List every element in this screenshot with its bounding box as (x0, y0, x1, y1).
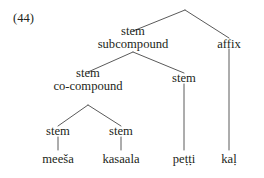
node-stem-meesa: stem (46, 125, 70, 138)
node-stem-petti: stem (172, 72, 196, 85)
node-affix-line1: affix (217, 38, 241, 51)
node-stem-petti-line1: stem (172, 72, 196, 85)
branch-cocompound-to-stem-meesa (58, 105, 88, 126)
figure-root: (44) stem subcompound affix stem co-comp… (0, 0, 264, 178)
node-stem-kasaala: stem (109, 125, 133, 138)
branch-root-to-affix (185, 10, 229, 38)
node-stem-meesa-line1: stem (46, 125, 70, 138)
node-cocompound-line2: co-compound (53, 80, 122, 93)
leaf-kasaala: kasaala (102, 152, 139, 167)
leaf-meesa: meeša (42, 152, 73, 167)
node-root: stem subcompound (98, 25, 169, 51)
node-root-line2: subcompound (98, 38, 169, 51)
leaf-petti: peṭṭi (173, 152, 195, 167)
node-affix: affix (217, 38, 241, 51)
branch-cocompound-to-stem-kasaala (88, 105, 121, 126)
leaf-kal: kaḷ (221, 152, 236, 167)
node-stem-kasaala-line1: stem (109, 125, 133, 138)
branch-subcompound-to-stem-petti (133, 52, 184, 73)
node-cocompound: stem co-compound (53, 67, 122, 93)
